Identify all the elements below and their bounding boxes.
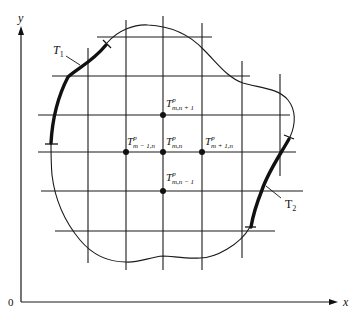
boundary-segment-t1 <box>51 45 106 143</box>
node-top <box>160 112 166 118</box>
node-center <box>160 149 166 155</box>
node-center-label: Tpm,n <box>166 134 183 150</box>
node-right <box>199 149 205 155</box>
t2-leader-line <box>266 186 281 198</box>
node-left-label: Tpm − 1,n <box>127 134 156 150</box>
origin-label: 0 <box>8 296 14 308</box>
node-top-label: Tpm,n + 1 <box>166 96 194 112</box>
node-left <box>123 149 129 155</box>
finite-difference-grid-diagram: y x 0 T1 T2 <box>0 0 361 321</box>
node-right-label: Tpm + 1,n <box>205 134 234 150</box>
x-axis-arrow-icon <box>329 299 338 305</box>
node-bottom-label: Tpm,n − 1 <box>166 170 194 186</box>
node-bottom <box>160 188 166 194</box>
x-axis-label: x <box>342 295 349 309</box>
t1-leader-line <box>66 56 80 65</box>
t2-label: T2 <box>285 197 296 213</box>
y-axis-label: y <box>17 11 24 25</box>
t1-label: T1 <box>53 43 64 59</box>
y-axis-arrow-icon <box>18 26 24 35</box>
